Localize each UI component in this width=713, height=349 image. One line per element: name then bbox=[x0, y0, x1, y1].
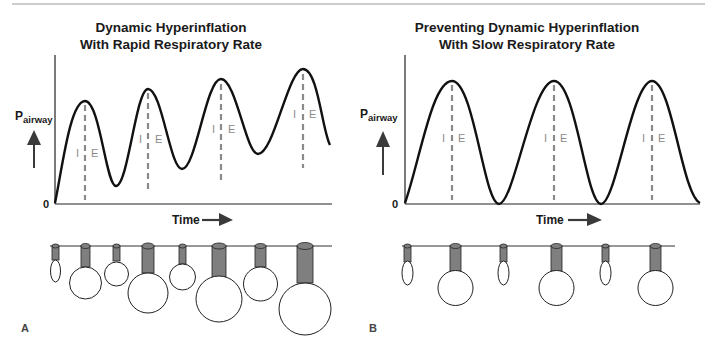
alveolus bbox=[600, 244, 611, 285]
panel-b-e-label-3: E bbox=[658, 132, 665, 144]
alveolus bbox=[638, 244, 673, 306]
alveolus bbox=[70, 244, 102, 300]
panel-a-i-label-2: I bbox=[139, 133, 142, 145]
panel-a-title-line1: Dynamic Hyperinflation bbox=[96, 20, 247, 35]
right-arrow-icon bbox=[202, 213, 233, 226]
panel-a-e-label-3: E bbox=[228, 123, 235, 135]
panel-b-e-label-2: E bbox=[560, 132, 567, 144]
alveolus bbox=[498, 244, 509, 285]
panel-a-y-label-main: P bbox=[15, 109, 23, 123]
up-arrow-icon bbox=[27, 130, 41, 168]
panel-b-i-label-2: I bbox=[544, 132, 547, 144]
alveolus bbox=[539, 244, 574, 306]
panel-a-i-label-1: I bbox=[76, 147, 79, 159]
panel-b-y-label: Pairway bbox=[360, 107, 398, 123]
panel-a-pressure-curve bbox=[55, 69, 330, 203]
panel-a: Dynamic Hyperinflation With Rapid Respir… bbox=[15, 20, 332, 335]
panel-a-e-label-4: E bbox=[309, 108, 316, 120]
panel-a-i-label-3: I bbox=[212, 123, 215, 135]
alveolus bbox=[438, 244, 473, 306]
up-arrow-icon bbox=[376, 131, 390, 175]
panel-a-e-label-1: E bbox=[91, 147, 98, 159]
panel-b-origin-label: 0 bbox=[392, 198, 398, 210]
panel-a-y-label-sub: airway bbox=[23, 114, 53, 125]
hyperinflation-figure: Dynamic Hyperinflation With Rapid Respir… bbox=[0, 0, 713, 349]
panel-a-x-label: Time bbox=[172, 213, 200, 227]
panel-b-title-line1: Preventing Dynamic Hyperinflation bbox=[415, 20, 639, 35]
alveolus bbox=[196, 243, 242, 322]
panel-a-y-label: Pairway bbox=[15, 109, 53, 125]
panel-b-i-label-3: I bbox=[642, 132, 645, 144]
alveolus bbox=[244, 244, 278, 302]
panel-b-y-label-main: P bbox=[360, 107, 368, 121]
alveolus bbox=[170, 244, 196, 290]
panel-a-e-label-2: E bbox=[155, 133, 162, 145]
panel-a-i-label-4: I bbox=[293, 108, 296, 120]
panel-a-origin-label: 0 bbox=[43, 198, 49, 210]
panel-b-title-line2: With Slow Respiratory Rate bbox=[439, 37, 616, 52]
panel-b-letter: B bbox=[369, 322, 377, 334]
panel-a-title-line2: With Rapid Respiratory Rate bbox=[80, 37, 263, 52]
alveolus bbox=[105, 244, 129, 286]
panel-b-x-label: Time bbox=[536, 213, 564, 227]
panel-b-e-label-1: E bbox=[458, 132, 465, 144]
panel-b: Preventing Dynamic Hyperinflation With S… bbox=[360, 20, 700, 334]
panel-b-pressure-curve bbox=[405, 81, 700, 204]
alveolus bbox=[128, 243, 168, 313]
panel-b-y-label-sub: airway bbox=[368, 112, 398, 123]
alveolus bbox=[402, 244, 413, 285]
panel-a-letter: A bbox=[21, 322, 29, 334]
alveolus bbox=[279, 243, 331, 336]
alveolus bbox=[51, 244, 61, 282]
right-arrow-icon bbox=[568, 213, 602, 226]
panel-b-i-label-1: I bbox=[442, 132, 445, 144]
